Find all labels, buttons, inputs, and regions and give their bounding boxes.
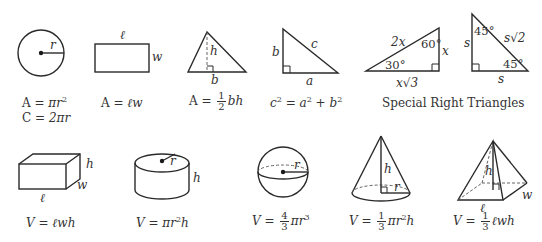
pyramid-figure: h ℓ w bbox=[458, 141, 533, 215]
figures-canvas: r ℓ w h b c b a 2x x x√3 30° 60° s s s√2 bbox=[0, 0, 542, 242]
circumference-rhs: 2πr bbox=[49, 111, 70, 125]
pi-symbol: π bbox=[291, 214, 299, 228]
box-width-label: w bbox=[77, 178, 88, 192]
triangle-figure: h b bbox=[188, 32, 246, 87]
rectangle-figure: ℓ w bbox=[95, 28, 163, 72]
exponent: 2 bbox=[337, 95, 342, 104]
cylinder-figure: r h bbox=[135, 154, 201, 199]
box-figure: ℓ w h bbox=[19, 154, 94, 205]
box-volume-formula: V = ℓwh bbox=[26, 216, 75, 230]
leg-s-vertical-label: s bbox=[464, 36, 470, 50]
pythagorean-formula: c2 = a2 + b2 bbox=[270, 96, 342, 110]
sphere-volume-formula: V = 43πr3 bbox=[252, 211, 309, 232]
cone-volume-formula: V = 13πr2h bbox=[349, 211, 414, 232]
rect-area-lhs: A bbox=[101, 96, 110, 110]
hyp-2x-label: 2x bbox=[390, 35, 406, 49]
fraction-one-third: 13 bbox=[481, 211, 489, 232]
cylinder-volume-formula: V = πr2h bbox=[136, 216, 189, 230]
denominator: 2 bbox=[217, 102, 225, 112]
sphere-radius-label: r bbox=[294, 158, 301, 172]
right-triangle-figure: c b a bbox=[272, 29, 338, 88]
fraction-one-half: 12 bbox=[217, 91, 225, 112]
circle-area-formula: A = πr2 bbox=[22, 96, 67, 110]
angle-45-bottom-label: 45° bbox=[503, 57, 523, 71]
right-triangle-leg-a-label: a bbox=[306, 74, 313, 88]
pyramid-volume-formula: V = 13ℓwh bbox=[453, 211, 515, 232]
fraction-four-thirds: 43 bbox=[280, 211, 288, 232]
cone-height-label: h bbox=[384, 162, 392, 176]
exponent: 3 bbox=[304, 213, 309, 222]
geometry-reference-sheet: r ℓ w h b c b a 2x x x√3 30° 60° s s s√2 bbox=[0, 0, 542, 242]
exponent: 2 bbox=[307, 95, 312, 104]
hyp-s-root2-label: s√2 bbox=[504, 31, 525, 45]
circle-circumference-formula: C = 2πr bbox=[22, 111, 70, 125]
rectangle-width-label: w bbox=[152, 50, 163, 64]
right-triangle-hyp-label: c bbox=[311, 37, 318, 51]
height-var: h bbox=[181, 216, 189, 230]
special-right-triangles-caption: Special Right Triangles bbox=[382, 96, 525, 110]
circle-figure: r bbox=[18, 30, 64, 76]
denominator: 3 bbox=[377, 222, 385, 232]
cylinder-height-label: h bbox=[193, 171, 201, 185]
cone-figure: h r bbox=[352, 136, 410, 201]
box-length-label: ℓ bbox=[40, 191, 45, 205]
tri-area-rhs: bh bbox=[228, 94, 243, 108]
pyramid-volume-rhs: ℓwh bbox=[492, 214, 515, 228]
triangle-height-label: h bbox=[210, 44, 218, 58]
tri-area-lhs: A bbox=[189, 94, 198, 108]
pyramid-height-label: h bbox=[485, 164, 493, 178]
height-var: h bbox=[406, 214, 414, 228]
rectangle-area-formula: A = ℓw bbox=[101, 96, 143, 110]
triangle-30-60-90-figure: 2x x x√3 30° 60° bbox=[366, 28, 449, 90]
circle-area-lhs: A bbox=[22, 96, 31, 110]
denominator: 3 bbox=[481, 222, 489, 232]
pi-symbol: π bbox=[388, 214, 396, 228]
fraction-one-third: 13 bbox=[377, 211, 385, 232]
circumference-lhs: C bbox=[22, 111, 31, 125]
angle-30-label: 30° bbox=[385, 58, 405, 72]
pyramid-volume-lhs: V bbox=[453, 214, 462, 228]
var-c: c bbox=[270, 96, 277, 110]
rectangle-length-label: ℓ bbox=[120, 28, 125, 42]
box-height-label: h bbox=[86, 157, 94, 171]
var-b: b bbox=[329, 96, 337, 110]
triangle-area-formula: A = 12bh bbox=[189, 91, 243, 112]
exponent: 2 bbox=[277, 95, 282, 104]
cyl-volume-lhs: V bbox=[136, 216, 145, 230]
cylinder-radius-label: r bbox=[170, 154, 177, 168]
exponent: 2 bbox=[62, 95, 67, 104]
denominator: 3 bbox=[280, 222, 288, 232]
cone-volume-lhs: V bbox=[349, 214, 358, 228]
short-leg-x-label: x bbox=[442, 44, 449, 58]
var-a: a bbox=[300, 96, 307, 110]
sphere-volume-lhs: V bbox=[252, 214, 261, 228]
box-volume-rhs: ℓwh bbox=[52, 216, 75, 230]
triangle-base-label: b bbox=[211, 73, 219, 87]
angle-45-top-label: 45° bbox=[474, 24, 494, 38]
triangle-45-45-90-figure: s s s√2 45° 45° bbox=[464, 14, 528, 86]
rect-area-rhs: ℓw bbox=[127, 96, 142, 110]
circle-radius-label: r bbox=[50, 38, 57, 52]
leg-s-horizontal-label: s bbox=[498, 72, 504, 86]
angle-60-label: 60° bbox=[421, 37, 441, 51]
long-leg-x-root3-label: x√3 bbox=[396, 76, 418, 90]
box-volume-lhs: V bbox=[26, 216, 35, 230]
sphere-figure: r bbox=[258, 147, 308, 197]
pyramid-width-label: w bbox=[522, 188, 533, 202]
right-triangle-leg-b-label: b bbox=[272, 45, 280, 59]
